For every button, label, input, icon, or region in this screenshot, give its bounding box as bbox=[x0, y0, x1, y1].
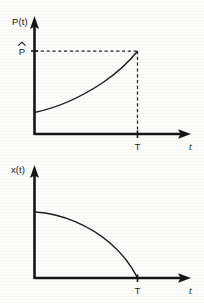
bottom-curve-x-of-t bbox=[36, 212, 138, 277]
chart-panel-bottom: x(t) t T bbox=[0, 151, 204, 303]
chart-panel-top: P(t) t P T bbox=[0, 0, 204, 152]
top-y-level-hat-accent bbox=[19, 42, 26, 45]
bottom-x-axis-label: t bbox=[189, 285, 192, 296]
bottom-x-tick-label-T: T bbox=[135, 286, 141, 296]
top-chart-svg: P(t) t P T bbox=[0, 0, 204, 152]
top-y-axis-label: P(t) bbox=[12, 16, 28, 27]
bottom-chart-svg: x(t) t T bbox=[0, 151, 204, 303]
bottom-y-axis-label: x(t) bbox=[11, 164, 25, 175]
top-y-level-label: P bbox=[19, 46, 25, 57]
top-curve-P-of-t bbox=[36, 52, 138, 113]
figure-root: P(t) t P T bbox=[0, 0, 204, 303]
